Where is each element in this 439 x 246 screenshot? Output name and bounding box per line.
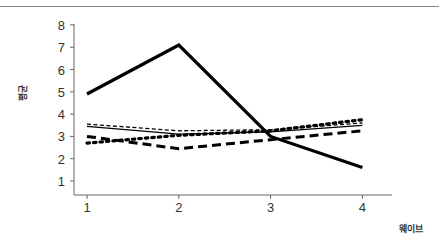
y-tick-label: 1 xyxy=(58,174,65,189)
y-axis-title: 평균 xyxy=(17,84,28,101)
y-tick-label: 8 xyxy=(58,18,65,33)
series-line-thick-solid xyxy=(87,45,362,168)
series-line-dotted xyxy=(87,120,362,143)
x-tick-label: 2 xyxy=(175,200,182,215)
x-axis-title: 웨이브 xyxy=(399,223,424,234)
y-tick-label: 3 xyxy=(58,129,65,144)
y-tick-label: 7 xyxy=(58,40,65,55)
x-tick-label: 1 xyxy=(83,200,90,215)
line-chart: 123456781234 평균 웨이브 xyxy=(0,0,439,246)
y-tick-label: 4 xyxy=(58,107,65,122)
axes: 123456781234 xyxy=(58,18,392,215)
series-group xyxy=(87,45,362,168)
y-tick-label: 6 xyxy=(58,63,65,78)
x-tick-label: 4 xyxy=(359,200,366,215)
x-tick-label: 3 xyxy=(267,200,274,215)
y-tick-label: 2 xyxy=(58,152,65,167)
y-tick-label: 5 xyxy=(58,85,65,100)
